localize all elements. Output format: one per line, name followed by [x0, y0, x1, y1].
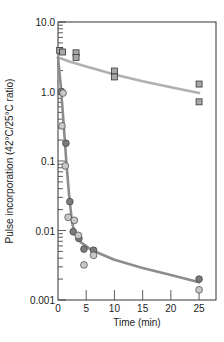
x-tick-label: 0 — [55, 303, 61, 314]
y-tick-label: 0.01 — [36, 226, 56, 237]
square-marker — [60, 49, 66, 55]
plot-frame — [58, 22, 216, 300]
data-points — [57, 47, 203, 293]
circle-marker — [75, 232, 82, 239]
circle-marker — [65, 214, 72, 221]
circle-marker — [196, 276, 203, 283]
circle-marker — [59, 122, 66, 129]
square-marker — [196, 99, 202, 105]
chart: 10.01.00.10.010.001 0510152025 Time (min… — [0, 0, 224, 342]
y-tick-label: 0.001 — [30, 295, 55, 306]
circle-marker — [63, 140, 70, 147]
x-axis-ticks: 0510152025 — [55, 290, 205, 314]
x-tick-label: 20 — [165, 303, 177, 314]
fit-curves — [58, 57, 199, 282]
circle-marker — [66, 198, 73, 205]
circle-marker — [196, 286, 203, 293]
x-axis-label: Time (min) — [113, 317, 160, 328]
y-tick-label: 0.1 — [41, 156, 55, 167]
circle-marker — [60, 90, 67, 97]
fit-curve-circles-fit — [58, 57, 199, 282]
x-tick-label: 15 — [137, 303, 149, 314]
circle-marker — [81, 246, 88, 253]
y-tick-label: 1.0 — [41, 87, 55, 98]
square-marker — [73, 54, 79, 60]
y-axis-label: Pulse incorporation (42°C/25°C ratio) — [4, 79, 15, 244]
square-marker — [196, 81, 202, 87]
x-tick-label: 10 — [109, 303, 121, 314]
square-marker — [111, 68, 117, 74]
x-tick-label: 5 — [83, 303, 89, 314]
y-tick-label: 10.0 — [36, 17, 56, 28]
y-axis-ticks: 10.01.00.10.010.001 — [30, 17, 66, 306]
circle-marker — [62, 163, 69, 170]
square-marker — [111, 74, 117, 80]
x-tick-label: 25 — [194, 303, 206, 314]
circle-marker — [71, 217, 78, 224]
circle-marker — [81, 261, 88, 268]
fit-curve-squares-fit — [58, 57, 199, 93]
plot-border — [58, 22, 216, 300]
circle-marker — [90, 252, 97, 259]
